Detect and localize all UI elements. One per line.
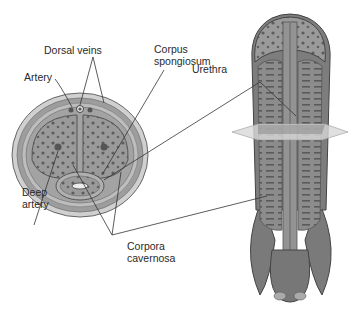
label-urethra: Urethra [192, 63, 227, 75]
label-corpora-cavernosa-line2: cavernosa [127, 252, 175, 264]
label-corpora-cavernosa-line1: Corpora [127, 240, 175, 252]
anatomy-diagram: Dorsal veins Artery Corpus spongiosum Ur… [0, 0, 358, 311]
label-corpus-spongiosum-line1: Corpus [154, 43, 211, 55]
label-deep-artery: Deep artery [22, 186, 49, 210]
label-deep-artery-line1: Deep [22, 186, 49, 198]
label-dorsal-veins: Dorsal veins [44, 44, 102, 56]
label-corpora-cavernosa: Corpora cavernosa [127, 240, 175, 264]
label-artery: Artery [24, 71, 52, 83]
longitudinal-section [232, 14, 348, 302]
label-deep-artery-line2: artery [22, 198, 49, 210]
